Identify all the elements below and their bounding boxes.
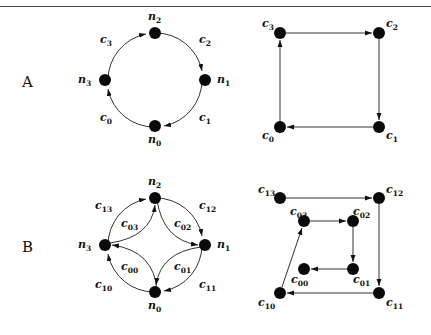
label-b-sq-c03: c03 — [290, 205, 307, 220]
node-b-c13 — [274, 192, 286, 204]
label-a-c1: c1 — [199, 111, 211, 126]
node-a-n2 — [149, 27, 161, 39]
label-a-sq-c2: c2 — [386, 17, 398, 32]
figure-canvas: A B n2 n1 n0 n3 c3 c2 c1 c0 c3 c2 c1 c0 — [0, 0, 431, 335]
node-a-c3 — [274, 27, 286, 39]
node-a-c2 — [373, 27, 385, 39]
label-b-sq-c12: c12 — [386, 183, 403, 198]
label-b-c02: c02 — [174, 217, 191, 232]
label-b-sq-c01: c01 — [353, 273, 370, 288]
row-label-b: B — [22, 238, 33, 256]
label-b-c11: c11 — [199, 278, 216, 293]
label-b-sq-c13: c13 — [258, 183, 275, 198]
label-a-n2: n2 — [148, 10, 161, 25]
label-b-c13: c13 — [95, 199, 112, 214]
label-a-sq-c0: c0 — [262, 129, 274, 144]
node-b-n1 — [199, 239, 211, 251]
label-b-sq-c10: c10 — [258, 296, 275, 311]
node-b-n0 — [149, 286, 161, 298]
label-a-c0: c0 — [100, 111, 112, 126]
row-label-a: A — [21, 73, 33, 91]
label-a-c2: c2 — [199, 33, 211, 48]
node-b-c12 — [373, 192, 385, 204]
node-b-n3 — [99, 239, 111, 251]
label-a-c3: c3 — [100, 33, 112, 48]
node-b-c10 — [274, 287, 286, 299]
edge-a-c1 — [164, 80, 202, 126]
label-b-sq-c00: c00 — [291, 273, 308, 288]
label-b-c01: c01 — [174, 260, 191, 275]
node-a-n1 — [199, 74, 211, 86]
label-a-sq-c1: c1 — [386, 129, 398, 144]
node-b-c00 — [298, 263, 310, 275]
edge-a-c3 — [108, 34, 146, 80]
label-a-n1: n1 — [217, 73, 230, 88]
graph-a-circle: n2 n1 n0 n3 c3 c2 c1 c0 — [78, 10, 230, 148]
label-b-n3: n3 — [78, 238, 91, 253]
node-b-c11 — [373, 287, 385, 299]
label-b-c03: c03 — [121, 217, 138, 232]
label-a-n0: n0 — [148, 133, 161, 148]
label-b-c00: c00 — [121, 260, 138, 275]
label-b-n0: n0 — [148, 299, 161, 314]
label-b-n1: n1 — [217, 238, 230, 253]
node-a-n0 — [149, 120, 161, 132]
graph-a-square: c3 c2 c1 c0 — [262, 17, 398, 144]
label-a-n3: n3 — [78, 73, 91, 88]
node-a-c0 — [274, 121, 286, 133]
graph-b-circle: n2 n1 n0 n3 c13 c12 c11 c10 c03 c02 c01 … — [78, 175, 230, 314]
node-a-c1 — [373, 121, 385, 133]
label-b-n2: n2 — [148, 175, 161, 190]
label-a-sq-c3: c3 — [262, 17, 274, 32]
edge-a-c0 — [108, 89, 155, 127]
node-b-n2 — [149, 192, 161, 204]
edge-a-c2 — [155, 33, 202, 71]
label-b-sq-c02: c02 — [353, 205, 370, 220]
label-b-sq-c11: c11 — [386, 296, 403, 311]
label-b-c10: c10 — [95, 278, 112, 293]
node-a-n3 — [99, 74, 111, 86]
graph-b-square: c13 c12 c11 c10 c03 c02 c01 c00 — [258, 183, 403, 311]
label-b-c12: c12 — [199, 199, 216, 214]
